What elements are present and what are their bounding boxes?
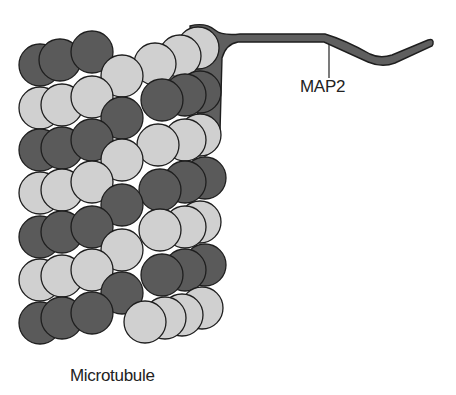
beta-tubulin-subunit xyxy=(139,169,181,211)
beta-tubulin-subunit xyxy=(141,254,183,296)
alpha-tubulin-subunit xyxy=(124,301,166,343)
alpha-tubulin-subunit xyxy=(139,209,181,251)
beta-tubulin-subunit xyxy=(141,79,183,121)
tubulin-subunits xyxy=(19,27,226,344)
beta-tubulin-subunit xyxy=(71,292,113,334)
map2-label: MAP2 xyxy=(300,77,345,97)
microtubule-diagram xyxy=(0,0,456,395)
microtubule-label: Microtubule xyxy=(70,366,155,386)
